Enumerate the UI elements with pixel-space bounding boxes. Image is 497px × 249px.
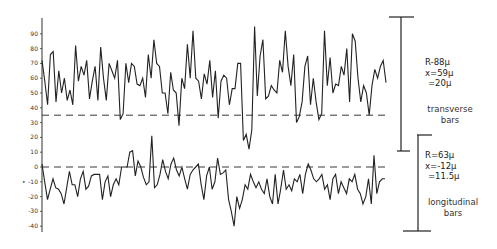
y-tick-label: 0 (34, 163, 38, 170)
reference-lines (42, 115, 386, 167)
stray-dot: • (22, 178, 26, 185)
y-tick-label: -20 (28, 193, 38, 200)
y-tick-label: -10 (28, 178, 38, 185)
trace-longitudinal-bars (42, 136, 385, 226)
transverse-sd: =20µ (425, 78, 453, 89)
transverse-label: transverse bars (420, 104, 480, 125)
trace-transverse-bars (42, 26, 386, 149)
y-tick-label: 80 (30, 45, 38, 52)
transverse-stats: R-88µ x=59µ =20µ (425, 57, 453, 89)
y-tick-label: -30 (28, 207, 38, 214)
y-axis: 9080706050403020100-10-20-30-40 (28, 18, 42, 232)
y-tick-label: 40 (30, 104, 38, 111)
transverse-mean: x=59µ (425, 68, 453, 79)
longitudinal-stats: R=63µ x=-12µ =11.5µ (425, 150, 459, 182)
transverse-range: R-88µ (425, 57, 453, 68)
y-tick-label: 20 (30, 133, 38, 140)
y-tick-label: 50 (30, 89, 38, 96)
longitudinal-range: R=63µ (425, 150, 459, 161)
y-tick-label: 90 (30, 30, 38, 37)
longitudinal-sd: =11.5µ (425, 171, 459, 182)
y-tick-label: 70 (30, 59, 38, 66)
y-tick-label: -40 (28, 222, 38, 229)
longitudinal-label: longitudinal bars (420, 197, 486, 218)
y-tick-label: 10 (30, 148, 38, 155)
longitudinal-mean: x=-12µ (425, 161, 459, 172)
y-tick-label: 60 (30, 74, 38, 81)
traces (42, 26, 386, 226)
y-tick-label: 30 (30, 119, 38, 126)
